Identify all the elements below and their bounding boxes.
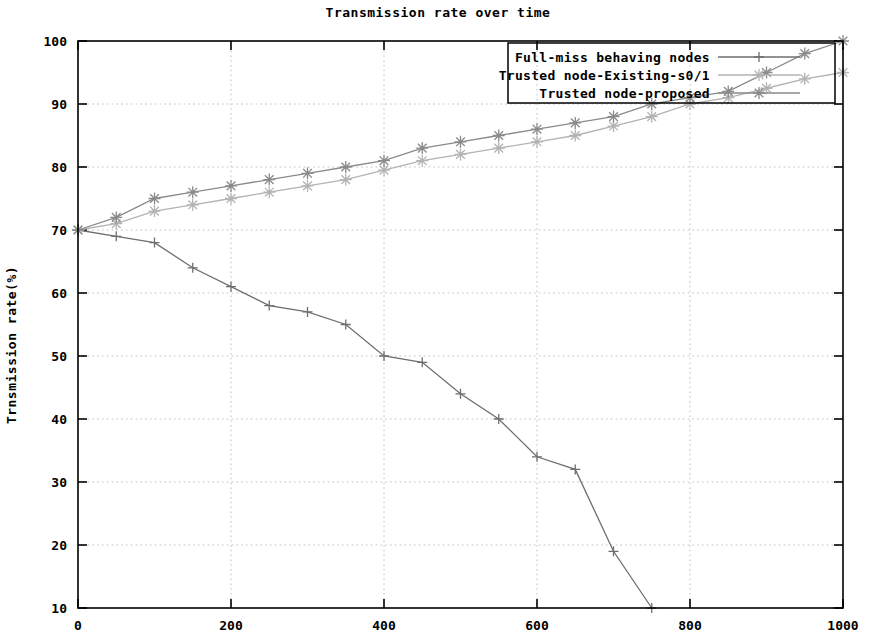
data-point-marker xyxy=(570,464,580,474)
data-point-marker xyxy=(531,136,543,148)
x-tick-label: 1000 xyxy=(827,618,858,633)
y-tick-label: 30 xyxy=(51,475,67,490)
data-point-marker xyxy=(111,231,121,241)
data-point-marker xyxy=(110,211,122,223)
series-line xyxy=(78,230,652,608)
x-tick-label: 0 xyxy=(74,618,82,633)
x-axis-ticks: 02004006008001000 xyxy=(74,41,859,633)
y-axis-label: Trnsmission rate(%) xyxy=(4,266,19,424)
data-point-marker xyxy=(799,73,811,85)
data-point-marker xyxy=(188,263,198,273)
y-tick-label: 60 xyxy=(51,286,67,301)
data-point-marker xyxy=(531,123,543,135)
x-tick-label: 600 xyxy=(525,618,549,633)
data-point-marker xyxy=(609,546,619,556)
data-point-marker xyxy=(302,167,314,179)
series-layer xyxy=(72,35,849,613)
y-axis-ticks: 102030405060708090100 xyxy=(44,34,843,616)
data-point-marker xyxy=(493,142,505,154)
data-point-marker xyxy=(187,199,199,211)
data-point-marker xyxy=(263,186,275,198)
y-tick-label: 70 xyxy=(51,223,67,238)
data-point-marker xyxy=(225,193,237,205)
legend-label-1: Trusted node-Existing-s0/1 xyxy=(499,68,710,83)
data-point-marker xyxy=(263,174,275,186)
data-point-marker xyxy=(340,174,352,186)
data-point-marker xyxy=(149,205,161,217)
data-point-marker xyxy=(799,48,811,60)
legend-marker-sample-0 xyxy=(754,52,764,62)
y-tick-label: 10 xyxy=(51,601,67,616)
x-tick-label: 400 xyxy=(372,618,396,633)
data-point-marker xyxy=(569,117,581,129)
plot-frame xyxy=(78,41,843,608)
chart-title: Transmission rate over time xyxy=(326,5,551,20)
y-tick-label: 90 xyxy=(51,97,67,112)
data-point-marker xyxy=(187,186,199,198)
data-point-marker xyxy=(226,282,236,292)
legend-label-2: Trusted node-proposed xyxy=(539,86,710,101)
data-point-marker xyxy=(416,155,428,167)
data-point-marker xyxy=(225,180,237,192)
legend-marker-sample-2 xyxy=(753,87,765,99)
gridlines xyxy=(78,41,843,608)
data-point-marker xyxy=(455,148,467,160)
data-point-marker xyxy=(493,130,505,142)
data-point-marker xyxy=(149,193,161,205)
data-point-marker xyxy=(722,85,734,97)
chart-legend: Full-miss behaving nodesTrusted node-Exi… xyxy=(499,43,835,103)
legend-marker-sample-1 xyxy=(753,69,765,81)
x-tick-label: 800 xyxy=(678,618,702,633)
data-point-marker xyxy=(303,307,313,317)
data-point-marker xyxy=(455,136,467,148)
data-point-marker xyxy=(416,142,428,154)
y-tick-label: 80 xyxy=(51,160,67,175)
data-point-marker xyxy=(264,301,274,311)
transmission-rate-chart: Transmission rate over time Trnsmission … xyxy=(0,0,877,637)
y-tick-label: 100 xyxy=(44,34,68,49)
data-point-marker xyxy=(569,130,581,142)
chart-container: Transmission rate over time Trnsmission … xyxy=(0,0,877,637)
y-tick-label: 20 xyxy=(51,538,67,553)
data-point-marker xyxy=(302,180,314,192)
data-point-marker xyxy=(340,161,352,173)
y-tick-label: 40 xyxy=(51,412,67,427)
y-tick-label: 50 xyxy=(51,349,67,364)
legend-label-0: Full-miss behaving nodes xyxy=(515,50,710,65)
data-point-marker xyxy=(150,238,160,248)
x-tick-label: 200 xyxy=(219,618,243,633)
data-point-marker xyxy=(608,111,620,123)
data-point-marker xyxy=(378,155,390,167)
data-point-marker xyxy=(646,111,658,123)
